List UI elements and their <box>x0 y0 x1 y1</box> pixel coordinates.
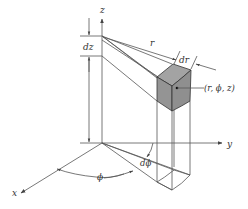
z-axis-label: z <box>99 5 105 15</box>
point-label: (r, ϕ, z) <box>204 83 235 93</box>
r-line-4 <box>102 56 157 101</box>
volume-element-cube <box>157 64 191 111</box>
phi-ray-2 <box>102 143 174 170</box>
dz-label: dz <box>83 42 94 52</box>
x-axis <box>21 143 102 193</box>
dr-tick-right <box>191 56 197 69</box>
base-front-line <box>157 182 172 190</box>
y-axis-label: y <box>226 139 233 149</box>
dphi-arc-top <box>147 143 153 157</box>
dr-label: dr <box>179 55 190 65</box>
r-label: r <box>150 38 155 48</box>
dr-arrow <box>196 64 216 70</box>
cylindrical-coordinates-diagram: z y x dz r dr (r, ϕ, z) ϕ dϕ <box>0 0 248 209</box>
dphi-label: dϕ <box>140 158 151 168</box>
phi-arc-right <box>104 171 133 178</box>
phi-label: ϕ <box>97 172 103 182</box>
r-line-3 <box>102 36 157 78</box>
r-arrow <box>103 37 176 60</box>
x-axis-label: x <box>12 188 17 198</box>
phi-arc-left <box>57 169 96 177</box>
